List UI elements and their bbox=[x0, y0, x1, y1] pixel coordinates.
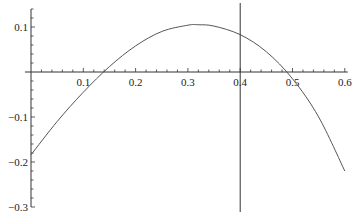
data-curve bbox=[31, 24, 345, 171]
x-tick-label: 0.1 bbox=[76, 76, 90, 88]
y-tick-label: −0.2 bbox=[8, 156, 28, 168]
y-tick-label: −0.3 bbox=[8, 201, 28, 213]
tick-labels: 0.10.20.30.40.50.60.1−0.1−0.2−0.3 bbox=[8, 21, 352, 213]
y-tick-label: 0.1 bbox=[14, 21, 28, 33]
y-tick-label: −0.1 bbox=[8, 111, 28, 123]
x-tick-label: 0.6 bbox=[338, 76, 352, 88]
ticks bbox=[31, 9, 345, 207]
chart: 0.10.20.30.40.50.60.1−0.1−0.2−0.3 bbox=[0, 0, 358, 216]
x-tick-label: 0.3 bbox=[181, 76, 195, 88]
x-tick-label: 0.2 bbox=[129, 76, 143, 88]
axes bbox=[25, 9, 348, 207]
